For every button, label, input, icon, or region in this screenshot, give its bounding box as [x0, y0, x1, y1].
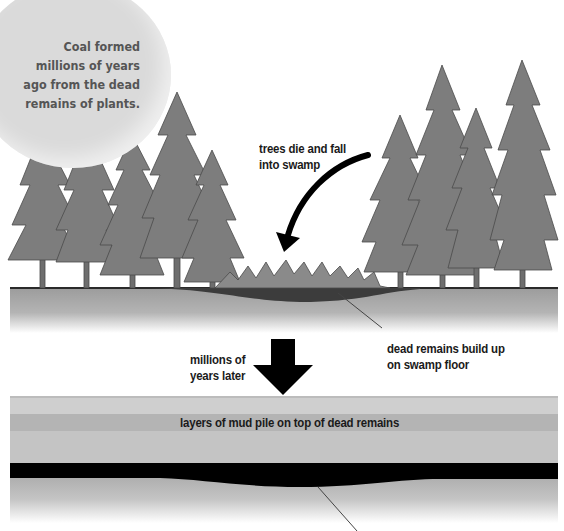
dead-remains-label: dead remains build up on swamp floor — [387, 341, 505, 373]
right-tree-group — [362, 60, 558, 288]
dead-remains-label-line-2: on swamp floor — [387, 357, 505, 373]
trees-fall-label: trees die and fall into swamp — [259, 141, 346, 173]
bubble-line-2: millions of years — [2, 56, 140, 75]
bubble-line-3: ago from the dead — [2, 75, 140, 94]
fallen-trees — [215, 260, 390, 288]
down-arrow-icon — [253, 339, 313, 395]
trees-fall-label-line-1: trees die and fall — [259, 141, 346, 157]
bubble-line-1: Coal formed — [2, 37, 140, 56]
bubble-line-4: remains of plants. — [2, 94, 140, 113]
time-passage-line-1: millions of — [190, 352, 245, 368]
mud-layers-label: layers of mud pile on top of dead remain… — [180, 415, 399, 431]
time-passage-line-2: years later — [190, 368, 245, 384]
title-bubble-text: Coal formed millions of years ago from t… — [2, 37, 140, 113]
dead-remains-label-line-1: dead remains build up — [387, 341, 505, 357]
mud-layer-1 — [10, 398, 558, 414]
trees-fall-label-line-2: into swamp — [259, 157, 346, 173]
time-passage-label: millions of years later — [190, 352, 245, 384]
mud-layer-3 — [10, 431, 558, 463]
